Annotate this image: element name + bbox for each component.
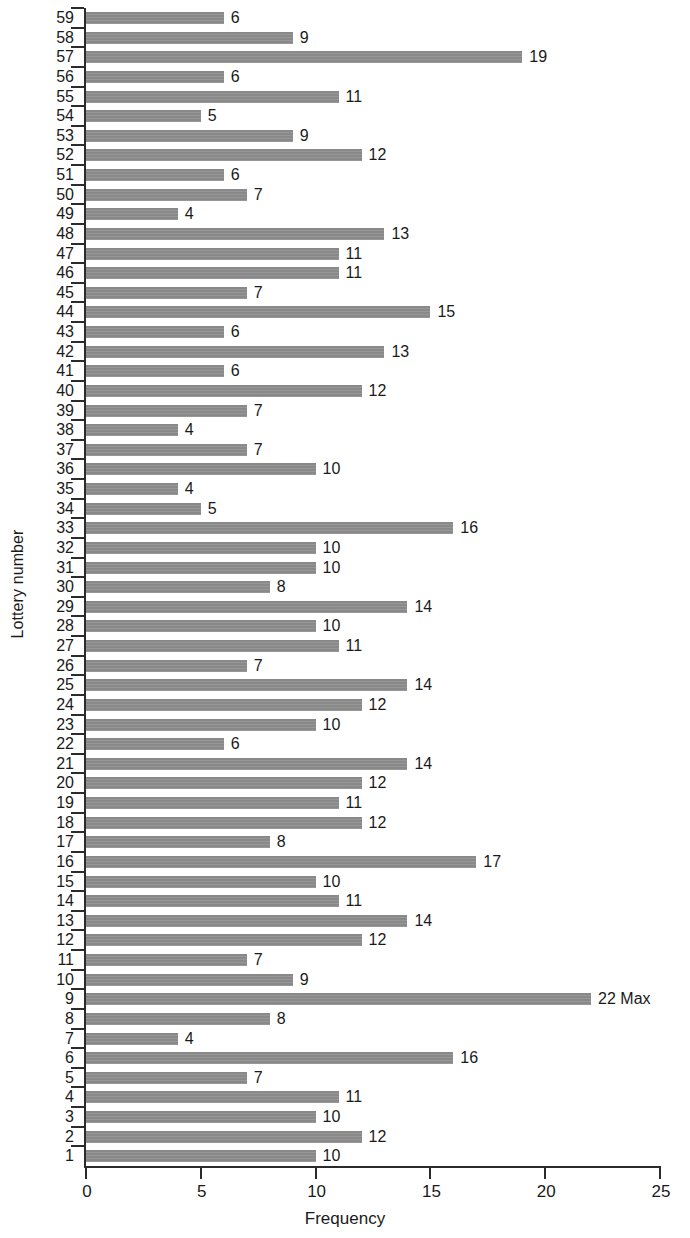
y-tick-label: 36 (34, 459, 74, 479)
y-tick-label: 41 (34, 361, 74, 381)
y-axis-tick-mark (71, 439, 84, 441)
y-tick-label: 22 (34, 734, 74, 754)
lottery-frequency-bar-chart: Lottery number 5965895719566551154553952… (0, 0, 690, 1238)
chart-row: 354 (0, 479, 690, 499)
chart-row: 616 (0, 1048, 690, 1068)
y-tick-label: 20 (34, 773, 74, 793)
bar (86, 385, 362, 397)
chart-row: 5212 (0, 145, 690, 165)
bar (86, 876, 316, 888)
chart-row: 3610 (0, 459, 690, 479)
y-tick-label: 15 (34, 872, 74, 892)
bar (86, 954, 247, 966)
bar-value-label: 12 (369, 1127, 387, 1147)
y-tick-label: 46 (34, 263, 74, 283)
bar (86, 51, 522, 63)
chart-row: 397 (0, 401, 690, 421)
y-axis-tick-mark (71, 714, 84, 716)
y-tick-label: 40 (34, 381, 74, 401)
y-tick-label: 48 (34, 224, 74, 244)
y-axis-tick-mark (71, 812, 84, 814)
bar (86, 562, 316, 574)
y-tick-label: 32 (34, 538, 74, 558)
bar (86, 1013, 270, 1025)
bar-value-label: 5 (208, 499, 217, 519)
x-axis-title-text: Frequency (305, 1209, 385, 1228)
bar (86, 306, 430, 318)
bar (86, 130, 293, 142)
bar-value-label: 11 (346, 1087, 363, 1107)
bar-value-label: 10 (323, 1146, 341, 1166)
bar (86, 267, 339, 279)
bar-value-label: 9 (300, 126, 309, 146)
y-tick-label: 25 (34, 675, 74, 695)
bar-value-label: 19 (529, 47, 547, 67)
y-tick-label: 54 (34, 106, 74, 126)
bar-value-label: 7 (254, 950, 263, 970)
bar-value-label: 5 (208, 106, 217, 126)
chart-row: 3110 (0, 558, 690, 578)
chart-row: 1617 (0, 852, 690, 872)
bar-value-label: 9 (300, 970, 309, 990)
y-axis-tick-mark (71, 1086, 84, 1088)
bar-value-label: 7 (254, 283, 263, 303)
bar (86, 679, 407, 691)
chart-row: 4415 (0, 302, 690, 322)
bar (86, 1150, 316, 1162)
bar (86, 1091, 339, 1103)
chart-row: 4611 (0, 263, 690, 283)
bar-value-label: 11 (346, 263, 363, 283)
x-axis-tick-mark (315, 1168, 317, 1179)
bar-value-label: 12 (369, 813, 387, 833)
bar-value-label: 8 (277, 1009, 286, 1029)
chart-row: 2114 (0, 754, 690, 774)
bar (86, 444, 247, 456)
bar (86, 463, 316, 475)
bar-value-label: 12 (369, 145, 387, 165)
y-tick-label: 30 (34, 577, 74, 597)
bar (86, 522, 453, 534)
bar (86, 110, 201, 122)
bar-value-label: 7 (254, 185, 263, 205)
y-axis-tick-mark (71, 1028, 84, 1030)
bar-value-label: 12 (369, 695, 387, 715)
y-tick-label: 2 (34, 1127, 74, 1147)
y-tick-label: 5 (34, 1068, 74, 1088)
bar-value-label: 7 (254, 440, 263, 460)
y-tick-label: 58 (34, 28, 74, 48)
y-axis-tick-mark (71, 125, 84, 127)
y-tick-label: 57 (34, 47, 74, 67)
bar-value-label: 4 (185, 420, 194, 440)
y-tick-label: 10 (34, 970, 74, 990)
y-tick-label: 7 (34, 1029, 74, 1049)
bar-value-label: 9 (300, 28, 309, 48)
chart-row: 212 (0, 1127, 690, 1147)
bar-value-label: 7 (254, 401, 263, 421)
y-tick-label: 52 (34, 145, 74, 165)
y-tick-label: 28 (34, 616, 74, 636)
y-axis-tick-mark (71, 46, 84, 48)
bar-value-label: 7 (254, 656, 263, 676)
y-tick-label: 31 (34, 558, 74, 578)
y-axis-tick-mark (71, 27, 84, 29)
x-tick-label: 10 (297, 1182, 337, 1202)
bar (86, 424, 178, 436)
chart-row: 494 (0, 204, 690, 224)
bar (86, 719, 316, 731)
y-tick-label: 35 (34, 479, 74, 499)
y-tick-label: 6 (34, 1048, 74, 1068)
chart-row: 457 (0, 283, 690, 303)
y-axis-tick-mark (71, 733, 84, 735)
bar-value-label: 10 (323, 715, 341, 735)
chart-row: 411 (0, 1087, 690, 1107)
bar (86, 1111, 316, 1123)
y-axis-tick-mark (71, 1145, 84, 1147)
x-axis-tick-mark (544, 1168, 546, 1179)
y-axis-tick-mark (71, 988, 84, 990)
chart-row: 589 (0, 28, 690, 48)
y-tick-label: 23 (34, 715, 74, 735)
bar (86, 1072, 247, 1084)
chart-row: 117 (0, 950, 690, 970)
y-axis-tick-mark (71, 674, 84, 676)
chart-row: 4213 (0, 342, 690, 362)
